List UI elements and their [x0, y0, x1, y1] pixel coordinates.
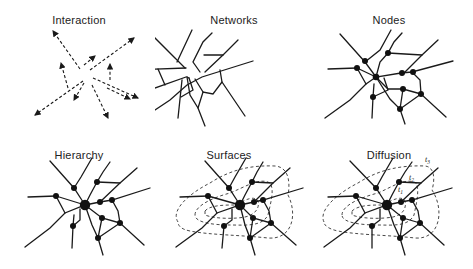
hierarchy-graphic: [0, 135, 160, 269]
panel-surfaces: Surfaces: [150, 135, 308, 269]
interaction-arrows-graphic: [0, 0, 158, 134]
surfaces-graphic: [150, 135, 320, 269]
networks-graphic: [155, 0, 315, 134]
label-t3: t3: [425, 155, 430, 165]
panel-diffusion: Diffusion: [310, 135, 468, 269]
nodes-graphic: [310, 0, 473, 134]
diffusion-graphic: t1 t2 t3: [310, 135, 473, 269]
panel-networks: Networks: [155, 0, 313, 134]
panel-nodes: Nodes: [310, 0, 468, 134]
panel-interaction: Interaction: [0, 0, 158, 134]
panel-hierarchy: Hierarchy: [0, 135, 158, 269]
label-t1: t1: [398, 185, 403, 195]
label-t2: t2: [409, 173, 414, 183]
